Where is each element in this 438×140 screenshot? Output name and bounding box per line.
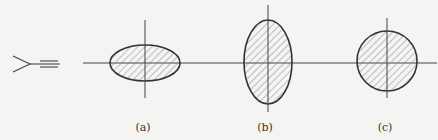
label-c: (c) [378,121,393,134]
viewing-eye-icon [13,56,60,72]
cross-section-diagram: (a) (b) (c) [0,0,438,140]
shape-a-horizontal-ellipse [110,20,180,98]
shape-b-vertical-ellipse [244,5,292,112]
label-b: (b) [257,121,273,134]
label-a: (a) [135,121,150,134]
shape-c-circle [357,18,417,98]
